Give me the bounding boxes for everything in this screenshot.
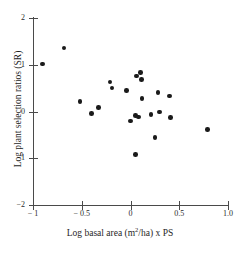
- data-point: [96, 105, 101, 110]
- data-point: [89, 111, 94, 116]
- x-axis-tick-label: − 0.5: [62, 209, 102, 218]
- scatter-plot-figure: −2−1012− 1− 0.500.51.0 Log plant selecti…: [0, 0, 240, 253]
- data-point: [136, 115, 141, 120]
- data-point: [40, 62, 45, 67]
- data-point: [128, 119, 133, 124]
- x-axis-title-before: Log basal area (m: [67, 228, 135, 238]
- data-point: [139, 77, 144, 82]
- x-axis-tick-label: 0.5: [159, 209, 199, 218]
- data-point: [205, 127, 210, 132]
- y-axis-title: Log plant selection ratios (SR): [13, 14, 23, 204]
- data-point: [156, 90, 161, 95]
- x-axis-tick-inner: [228, 201, 229, 205]
- x-axis-title: Log basal area (m2/ha) x PS: [0, 228, 240, 238]
- y-axis-tick-inner: [34, 205, 38, 206]
- data-point: [138, 70, 143, 75]
- x-axis-title-after: /ha) x PS: [138, 228, 173, 238]
- x-axis-tick-label: 1.0: [208, 209, 240, 218]
- x-axis-tick-label: − 1: [13, 209, 53, 218]
- data-point: [168, 115, 173, 120]
- data-point: [133, 152, 138, 157]
- x-axis-tick-label: 0: [111, 209, 151, 218]
- data-point: [153, 135, 158, 140]
- data-point: [78, 99, 83, 104]
- data-point: [149, 112, 154, 117]
- data-point: [124, 88, 129, 93]
- data-point: [167, 94, 172, 99]
